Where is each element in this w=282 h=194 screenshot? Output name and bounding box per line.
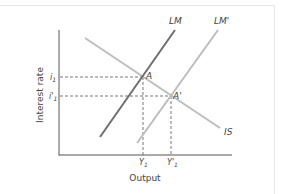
tick-y1-prime: Y'1 — [167, 158, 178, 168]
tick-i1-prime: i'1 — [49, 92, 57, 102]
point-a-prime-label: A' — [172, 91, 182, 101]
tick-y1: Y1 — [139, 158, 148, 168]
tick-i1: i1 — [50, 73, 56, 83]
y-axis-title: Interest rate — [35, 67, 45, 123]
is-label: IS — [224, 127, 233, 137]
lm-prime-label: LM' — [214, 16, 229, 26]
lm-label: LM — [169, 16, 182, 26]
x-axis-title: Output — [129, 173, 161, 183]
is-lm-chart: LM LM' IS A A' i1 i'1 Y1 Y'1 Output Inte… — [0, 0, 282, 194]
is-curve — [85, 38, 220, 128]
point-a-label: A — [145, 71, 152, 81]
lm-curve — [100, 30, 175, 137]
lm-prime-curve — [137, 30, 218, 143]
